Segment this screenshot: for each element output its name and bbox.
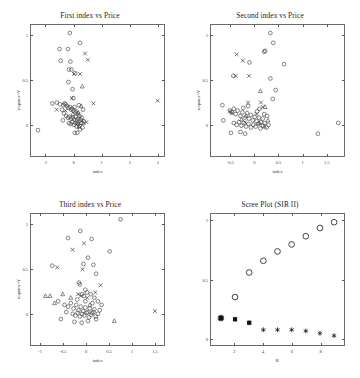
y-tick-mark xyxy=(30,80,33,81)
marker-circle xyxy=(263,49,267,53)
y-tick-mark-right xyxy=(342,125,345,126)
marker-circle-large xyxy=(317,225,323,231)
marker-square xyxy=(219,316,223,320)
marker-circle xyxy=(78,41,82,45)
marker-square xyxy=(247,321,251,325)
plot-area-second-index xyxy=(210,24,345,157)
x-tick-mark xyxy=(327,154,328,157)
marker-circle-large xyxy=(289,242,295,248)
marker-circle xyxy=(66,236,70,240)
y-tick-mark xyxy=(210,339,213,340)
x-tick-label: 1 xyxy=(101,160,103,165)
marker-circle-large xyxy=(232,294,238,300)
marker-circle xyxy=(63,303,67,307)
panel-title-scree-plot: Scree Plot (SIR II) xyxy=(180,200,360,209)
marker-circle xyxy=(94,272,98,276)
marker-circle xyxy=(92,263,96,267)
x-tick-mark xyxy=(254,154,255,157)
marker-triangle xyxy=(112,319,116,323)
marker-circle xyxy=(86,319,90,323)
marker-circle xyxy=(274,88,278,92)
x-tick-mark xyxy=(102,154,103,157)
marker-circle xyxy=(68,60,72,64)
marker-circle xyxy=(247,122,251,126)
panel-first-index: First index vs Price response=Y -1012300… xyxy=(0,0,180,189)
x-tick-label: -1 xyxy=(44,160,48,165)
marker-circle xyxy=(234,112,238,116)
x-tick-mark-top xyxy=(102,24,103,27)
x-tick-label: 1.5 xyxy=(152,349,158,354)
x-tick-mark-top xyxy=(45,24,46,27)
marker-circle xyxy=(50,102,54,106)
panel-title-third-index: Third index vs Price xyxy=(0,200,180,209)
marker-triangle xyxy=(258,89,262,93)
x-tick-mark xyxy=(303,154,304,157)
marker-circle xyxy=(269,31,273,35)
marker-circle xyxy=(94,317,98,321)
scatter-marks-scree-plot xyxy=(211,214,344,345)
x-tick-label: 6 xyxy=(291,349,293,354)
x-tick-mark-top xyxy=(40,213,41,216)
marker-circle-large xyxy=(303,233,309,239)
marker-circle xyxy=(262,50,266,54)
x-tick-mark xyxy=(158,154,159,157)
marker-circle xyxy=(236,109,240,113)
x-tick-mark-top xyxy=(278,24,279,27)
marker-triangle xyxy=(266,118,270,122)
marker-circle xyxy=(336,121,340,125)
marker-circle xyxy=(240,110,244,114)
y-tick-mark xyxy=(30,269,33,270)
marker-circle xyxy=(248,61,252,65)
marker-circle xyxy=(88,307,92,311)
marker-circle xyxy=(232,107,236,111)
x-tick-mark xyxy=(45,154,46,157)
marker-circle xyxy=(96,299,100,303)
marker-square xyxy=(233,317,237,321)
y-tick-mark-right xyxy=(162,35,165,36)
scatter-marks-third-index xyxy=(31,214,164,345)
y-tick-label: 0.5 xyxy=(18,78,28,83)
y-tick-mark-right xyxy=(342,80,345,81)
marker-triangle xyxy=(61,292,65,296)
marker-circle xyxy=(261,117,265,121)
marker-circle xyxy=(59,59,63,63)
marker-triangle xyxy=(69,296,73,300)
marker-circle xyxy=(36,128,40,132)
x-axis-label-third-index: index xyxy=(30,358,165,363)
marker-circle xyxy=(108,250,112,254)
marker-circle xyxy=(80,321,84,325)
scree-and-index-plot-figure: First index vs Price response=Y -1012300… xyxy=(0,0,360,378)
y-tick-label: 0 xyxy=(18,123,28,128)
x-tick-label: -1 xyxy=(38,349,42,354)
x-tick-mark-top xyxy=(74,24,75,27)
marker-triangle xyxy=(53,301,57,305)
marker-circle xyxy=(75,298,79,302)
marker-circle xyxy=(72,307,76,311)
marker-circle xyxy=(265,114,269,118)
x-tick-mark-top xyxy=(292,213,293,216)
y-tick-mark-right xyxy=(342,35,345,36)
x-tick-mark-top xyxy=(254,24,255,27)
scatter-marks-first-index xyxy=(31,25,164,156)
y-tick-mark xyxy=(210,125,213,126)
x-tick-label: 4 xyxy=(262,349,264,354)
x-tick-label: 1.5 xyxy=(324,160,330,165)
marker-circle xyxy=(68,31,72,35)
marker-circle xyxy=(66,305,70,309)
marker-circle xyxy=(86,310,90,314)
y-tick-label: 0 xyxy=(18,312,28,317)
marker-circle xyxy=(89,292,93,296)
x-tick-mark-top xyxy=(86,213,87,216)
x-axis-label-second-index: index xyxy=(210,169,345,174)
x-tick-mark-top xyxy=(263,213,264,216)
y-tick-mark xyxy=(30,35,33,36)
panel-scree-plot: Scree Plot (SIR II) 246800.51 K xyxy=(180,189,360,378)
plot-area-first-index xyxy=(30,24,165,157)
y-tick-label: 0.5 xyxy=(198,277,208,282)
marker-circle xyxy=(257,116,261,120)
y-tick-label: 1 xyxy=(18,221,28,226)
x-tick-label: 1 xyxy=(301,160,303,165)
marker-circle xyxy=(50,264,54,268)
marker-circle xyxy=(70,68,74,72)
marker-circle xyxy=(90,237,94,241)
